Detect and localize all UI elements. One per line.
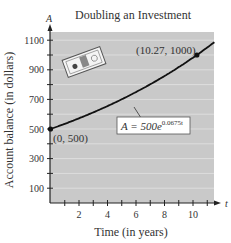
svg-text:8: 8 <box>162 209 167 220</box>
svg-text:6: 6 <box>134 209 139 220</box>
svg-text:300: 300 <box>29 153 44 164</box>
chart-title: Doubling an Investment <box>75 8 192 22</box>
x-axis-var: t <box>225 198 228 209</box>
svg-text:100: 100 <box>29 183 44 194</box>
svg-text:900: 900 <box>29 64 44 75</box>
svg-text:700: 700 <box>29 94 44 105</box>
svg-text:1100: 1100 <box>24 35 44 46</box>
y-axis-arrow-icon <box>48 24 53 31</box>
x-axis-arrow-icon <box>214 201 221 206</box>
chart: 1003005007009001100246810 t A Doubling a… <box>0 0 231 243</box>
x-axis-label: Time (in years) <box>94 225 168 239</box>
y-axis-label: Account balance (in dollars) <box>2 52 16 188</box>
point-label-doubled: (10.27, 1000) <box>136 44 196 57</box>
svg-text:4: 4 <box>105 209 110 220</box>
y-axis-var: A <box>45 13 53 24</box>
svg-text:10: 10 <box>188 209 198 220</box>
svg-text:500: 500 <box>29 124 44 135</box>
point-label-initial: (0, 500) <box>53 132 88 145</box>
svg-text:2: 2 <box>77 209 82 220</box>
